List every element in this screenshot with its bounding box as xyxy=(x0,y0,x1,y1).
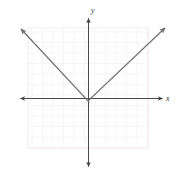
graph-figure: y x xyxy=(0,0,177,174)
y-axis-label: y xyxy=(91,7,95,15)
x-axis-label: x xyxy=(166,95,170,103)
coordinate-plane xyxy=(0,0,177,174)
